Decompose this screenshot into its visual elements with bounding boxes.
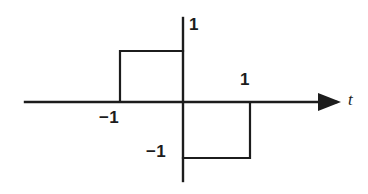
y-axis-positive-one-label: 1 — [189, 16, 199, 33]
y-axis-negative-one-label: −1 — [146, 143, 166, 160]
t-axis-arrow-icon — [318, 93, 341, 111]
t-axis-negative-one-label: −1 — [99, 109, 119, 126]
t-axis-name-label: t — [348, 91, 353, 108]
signal-diagram-figure: 1 1 −1 −1 t — [0, 0, 368, 194]
negative-pulse-path — [183, 102, 250, 158]
t-axis-positive-one-label: 1 — [240, 71, 250, 88]
plot-canvas — [0, 0, 368, 194]
positive-pulse-path — [120, 51, 183, 102]
